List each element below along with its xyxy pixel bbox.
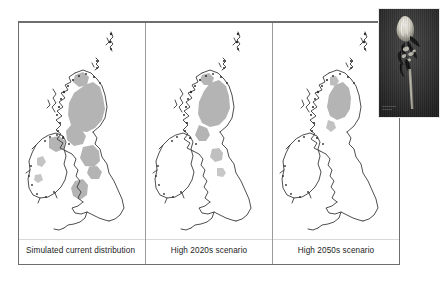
plant-photograph-inset[interactable] — [378, 8, 440, 118]
occupied-shading-layer — [34, 72, 105, 200]
map-panel-simulated-current[interactable]: Simulated current distribution — [19, 23, 145, 264]
panel-caption-high-2050s: High 2050s scenario — [273, 246, 399, 255]
occupied-shading-layer — [326, 76, 351, 132]
occupied-shading-layer — [195, 73, 230, 177]
map-canvas-high-2020s — [146, 23, 272, 237]
map-panel-high-2020s[interactable]: High 2020s scenario — [145, 23, 272, 264]
figure-container: Simulated current distribution — [0, 0, 447, 281]
panel-caption-divider — [273, 239, 399, 240]
panel-caption-simulated-current: Simulated current distribution — [19, 246, 145, 255]
dark-speckle-layer — [282, 33, 366, 198]
panel-caption-divider — [19, 239, 145, 240]
coastline-layer — [280, 32, 378, 230]
map-panel-row: Simulated current distribution — [19, 23, 399, 264]
panel-caption-high-2020s: High 2020s scenario — [146, 246, 272, 255]
panel-caption-divider — [146, 239, 272, 240]
map-canvas-simulated-current — [19, 23, 145, 237]
